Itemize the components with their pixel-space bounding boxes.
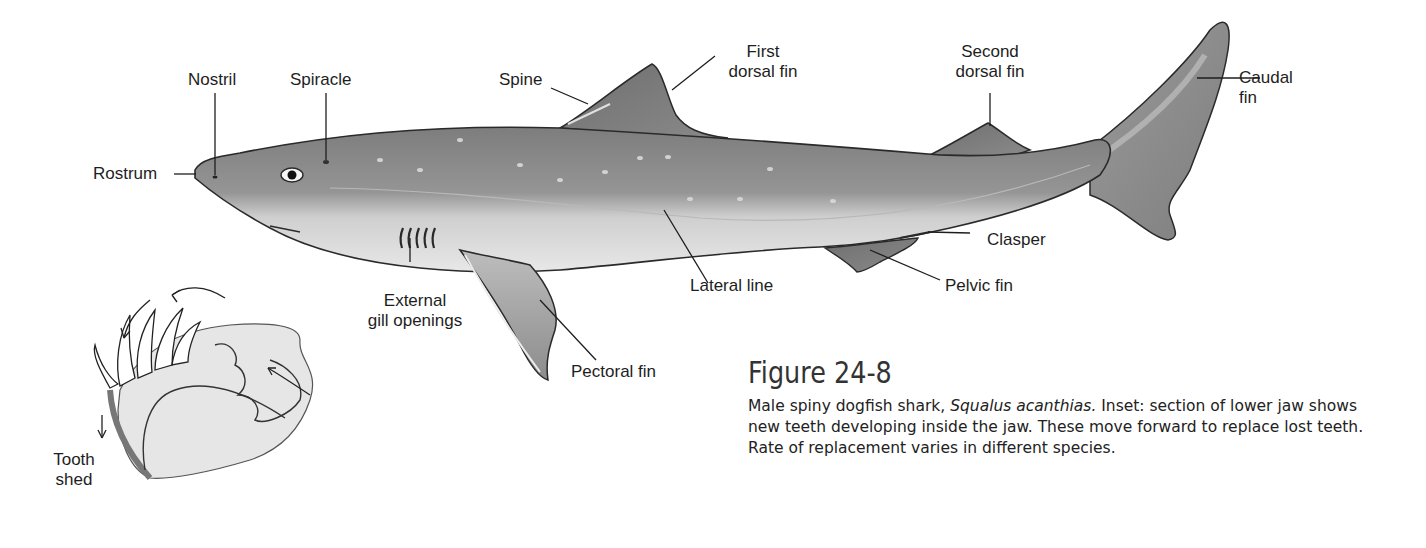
second-dorsal-fin (930, 123, 1030, 156)
label-lateral-line: Lateral line (690, 276, 773, 296)
label-pelvic-fin: Pelvic fin (945, 276, 1013, 296)
label-external-gill-openings: External gill openings (360, 291, 470, 331)
nostril (213, 176, 218, 179)
label-spiracle: Spiracle (290, 70, 351, 90)
figure-stage: Nostril Spiracle Rostrum Spine First dor… (0, 0, 1426, 548)
label-second-dorsal-fin: Second dorsal fin (940, 42, 1040, 82)
label-pectoral-fin: Pectoral fin (571, 362, 656, 382)
caption-prefix: Male spiny dogfish shark, (748, 397, 950, 415)
label-tooth-shed: Tooth shed (44, 450, 104, 490)
label-spine: Spine (499, 70, 542, 90)
caudal-fin (1090, 22, 1229, 240)
caption-species: Squalus acanthias. (950, 397, 1096, 415)
spiracle (323, 160, 329, 164)
jaw-inset (94, 288, 312, 478)
label-nostril: Nostril (188, 70, 236, 90)
label-caudal-fin: Caudal fin (1239, 68, 1293, 108)
figure-caption: Male spiny dogfish shark, Squalus acanth… (748, 396, 1388, 459)
label-first-dorsal-fin: First dorsal fin (713, 42, 813, 82)
label-clasper: Clasper (987, 230, 1046, 250)
label-rostrum: Rostrum (93, 164, 157, 184)
figure-number: Figure 24-8 (748, 355, 892, 390)
pupil (288, 171, 297, 180)
